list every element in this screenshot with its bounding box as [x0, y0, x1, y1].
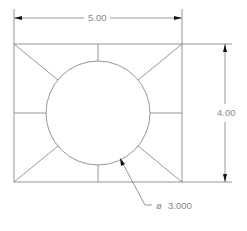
arrow-height-bottom — [223, 174, 227, 182]
diameter-symbol: ø — [156, 200, 162, 211]
arrow-height-top — [223, 44, 227, 52]
arrow-width-left — [14, 16, 22, 20]
drawing-svg: 5.00 4.00 ø 3.000 — [0, 0, 247, 231]
center-circle — [46, 61, 150, 165]
diameter-leader — [121, 160, 152, 205]
diag-bottom-left — [14, 146, 58, 182]
height-dimension-label: 4.00 — [217, 107, 236, 118]
diameter-value-label: 3.000 — [168, 200, 192, 211]
technical-drawing: 5.00 4.00 ø 3.000 — [0, 0, 247, 231]
diag-top-left — [14, 44, 58, 80]
width-dimension-label: 5.00 — [88, 12, 107, 23]
arrow-width-right — [174, 16, 182, 20]
diag-bottom-right — [138, 146, 182, 182]
diag-top-right — [138, 44, 182, 80]
